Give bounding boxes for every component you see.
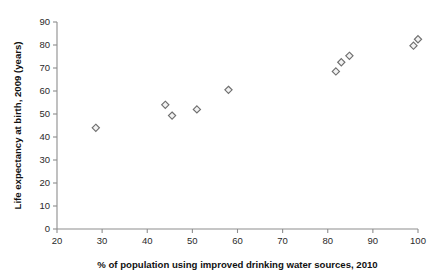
x-tick-label: 100 xyxy=(410,235,426,246)
y-tick-label: 70 xyxy=(39,62,50,73)
data-point xyxy=(410,42,417,49)
x-tick-label: 70 xyxy=(277,235,288,246)
x-tick-label: 90 xyxy=(368,235,379,246)
y-tick-label: 60 xyxy=(39,85,50,96)
y-tick-label: 20 xyxy=(39,177,50,188)
y-axis-tick-labels: 0102030405060708090 xyxy=(39,16,50,234)
x-tick-label: 50 xyxy=(187,235,198,246)
y-axis-ticks xyxy=(53,22,57,229)
x-tick-label: 80 xyxy=(322,235,333,246)
y-axis-title: Life expectancy at birth, 2009 (years) xyxy=(12,42,23,210)
data-point xyxy=(332,68,339,75)
x-axis-ticks xyxy=(57,229,418,233)
y-tick-label: 50 xyxy=(39,108,50,119)
x-axis-tick-labels: 2030405060708090100 xyxy=(52,235,426,246)
y-tick-label: 40 xyxy=(39,131,50,142)
y-tick-label: 80 xyxy=(39,39,50,50)
data-point xyxy=(168,112,175,119)
y-tick-label: 90 xyxy=(39,16,50,27)
y-tick-label: 30 xyxy=(39,154,50,165)
scatter-chart: 0102030405060708090 2030405060708090100 … xyxy=(0,0,437,279)
data-point xyxy=(346,52,353,59)
y-tick-label: 0 xyxy=(45,223,50,234)
x-tick-label: 40 xyxy=(142,235,153,246)
x-axis-title: % of population using improved drinking … xyxy=(97,259,377,270)
data-point xyxy=(92,124,99,131)
data-point xyxy=(193,106,200,113)
data-point xyxy=(414,36,421,43)
data-point-group xyxy=(92,36,421,132)
x-tick-label: 30 xyxy=(97,235,108,246)
y-tick-label: 10 xyxy=(39,200,50,211)
plot-canvas: 0102030405060708090 2030405060708090100 … xyxy=(0,0,437,279)
x-tick-label: 20 xyxy=(52,235,63,246)
x-tick-label: 60 xyxy=(232,235,243,246)
data-point xyxy=(338,59,345,66)
data-point xyxy=(225,86,232,93)
data-point xyxy=(162,101,169,108)
